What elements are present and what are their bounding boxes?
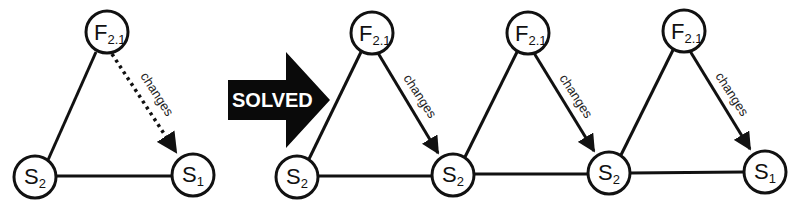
edge-label-changes-1: changes: [400, 71, 440, 121]
solved-label: SOLVED: [232, 89, 313, 111]
edge-t3-left: [621, 50, 673, 155]
edge-bottom-3: [630, 172, 744, 173]
node-s2-2: S2: [432, 154, 474, 196]
right-graph: changes changes changes F2.1 F2.1 F2.1 S…: [276, 10, 786, 198]
node-s2-3: S2: [588, 152, 630, 194]
edge-f-to-s2: [48, 52, 96, 160]
node-s2: S2: [14, 156, 56, 198]
diagram-canvas: changes F2.1 S2 S1 SOLVED changes change…: [0, 0, 797, 208]
node-f21-1: F2.1: [351, 12, 393, 54]
edge-label-changes: changes: [137, 69, 177, 119]
edge-t2-left: [465, 52, 517, 157]
node-s2-1: S2: [276, 156, 318, 198]
edge-label-changes-3: changes: [712, 69, 752, 119]
node-f21-2: F2.1: [507, 12, 549, 54]
node-s1-end: S1: [744, 151, 786, 193]
edge-label-changes-2: changes: [556, 71, 596, 121]
left-graph: changes F2.1 S2 S1: [14, 11, 214, 198]
node-f21: F2.1: [86, 11, 128, 53]
solved-arrow: SOLVED: [228, 52, 330, 148]
node-f21-3: F2.1: [663, 10, 705, 52]
node-s1: S1: [172, 154, 214, 196]
